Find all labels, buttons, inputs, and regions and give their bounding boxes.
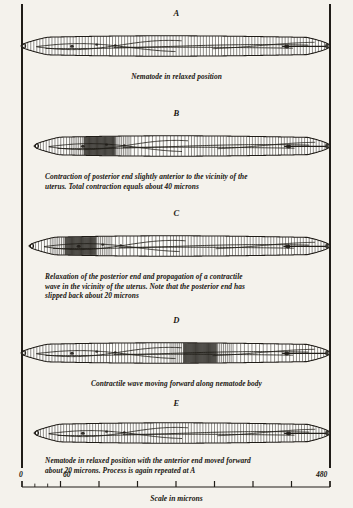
panel-letter-b: B bbox=[0, 108, 353, 118]
nematode-drawing-d bbox=[0, 330, 353, 376]
scale-axis: 0 60 480 Scale in microns bbox=[0, 470, 353, 508]
panel-letter-e: E bbox=[0, 398, 353, 408]
axis-caption: Scale in microns bbox=[0, 494, 353, 503]
panel-letter-c: C bbox=[0, 208, 353, 218]
nematode-svg-c bbox=[0, 223, 353, 269]
nematode-svg-a bbox=[0, 23, 353, 69]
axis-label-max: 480 bbox=[316, 470, 327, 479]
nematode-drawing-c bbox=[0, 223, 353, 269]
caption-b: Contraction of posterior end slightly an… bbox=[45, 172, 313, 191]
nematode-locomotion-figure: A Nematode in relaxed position B Contrac… bbox=[0, 0, 353, 508]
nematode-drawing-e bbox=[0, 410, 353, 456]
nematode-svg-d bbox=[0, 330, 353, 376]
nematode-svg-e bbox=[0, 410, 353, 456]
panel-letter-a: A bbox=[0, 8, 353, 18]
panel-letter-d: D bbox=[0, 315, 353, 325]
caption-a: Nematode in relaxed position bbox=[0, 72, 353, 82]
axis-label-min: 0 bbox=[19, 470, 23, 479]
axis-label-mid: 60 bbox=[63, 470, 71, 479]
nematode-drawing-a bbox=[0, 23, 353, 69]
caption-d: Contractile wave moving forward along ne… bbox=[0, 379, 353, 389]
nematode-drawing-b bbox=[0, 123, 353, 169]
caption-c: Relaxation of the posterior end and prop… bbox=[45, 272, 313, 301]
nematode-svg-b bbox=[0, 123, 353, 169]
